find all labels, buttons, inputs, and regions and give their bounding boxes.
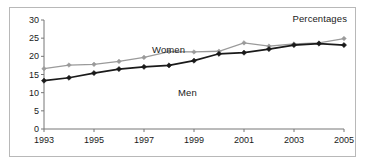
x-tick-label: 1999 <box>184 135 204 145</box>
x-tick-label: 2001 <box>234 135 254 145</box>
percentages-note: Percentages <box>293 13 347 24</box>
x-tick-label: 2005 <box>334 135 354 145</box>
series-label-men: Men <box>178 87 197 98</box>
series-label-women: Women <box>152 44 185 55</box>
x-tick-label: 1993 <box>34 135 54 145</box>
x-tick-label: 1997 <box>134 135 154 145</box>
x-tick-label: 1995 <box>84 135 104 145</box>
chart-figure: 051015202530 199319951997199920012003200… <box>9 7 356 157</box>
x-tick-label: 2003 <box>284 135 304 145</box>
x-axis-tick-labels: 1993199519971999200120032005 <box>10 8 355 156</box>
